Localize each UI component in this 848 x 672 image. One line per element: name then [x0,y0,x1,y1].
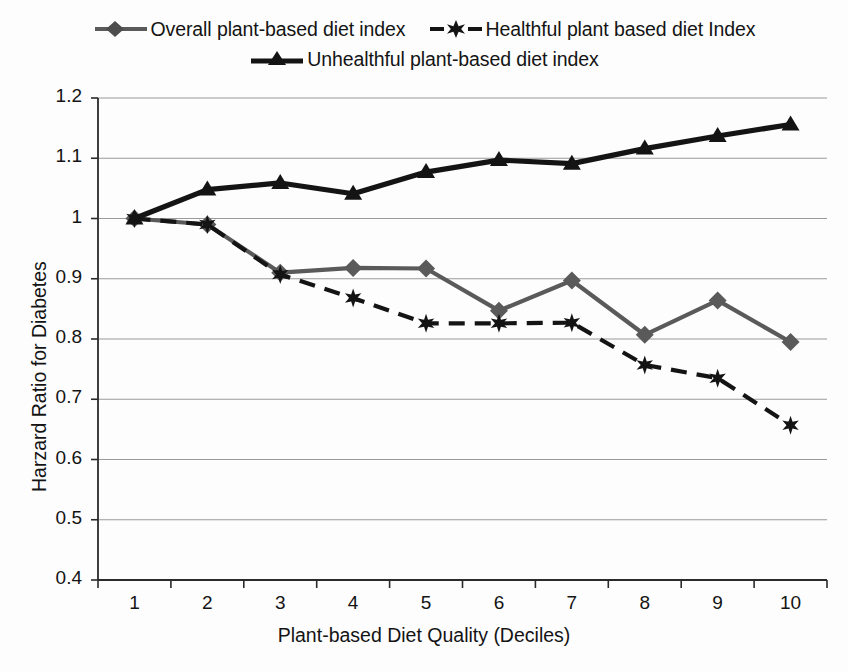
y-tick-label: 1.2 [12,85,82,107]
x-tick-label: 4 [331,592,375,614]
y-tick-label: 0.8 [12,326,82,348]
data-point-marker[interactable] [782,416,798,435]
data-point-marker[interactable] [344,259,362,277]
series-line [134,125,790,219]
chart-figure: Overall plant-based diet index Healthful… [0,0,848,672]
series-2 [126,209,799,435]
x-tick-label: 10 [769,592,813,614]
y-tick-label: 0.7 [12,386,82,408]
y-tick-label: 0.4 [12,567,82,589]
x-tick-label: 3 [258,592,302,614]
x-tick-label: 1 [112,592,156,614]
x-tick-label: 8 [623,592,667,614]
series-1 [125,210,799,352]
y-tick-label: 0.6 [12,447,82,469]
x-tick-label: 5 [404,592,448,614]
y-tick-label: 0.9 [12,266,82,288]
x-tick-label: 6 [477,592,521,614]
x-axis-title: Plant-based Diet Quality (Deciles) [0,624,848,647]
data-point-marker[interactable] [417,260,435,278]
x-tick-label: 9 [696,592,740,614]
x-tick-label: 2 [185,592,229,614]
y-tick-label: 1.1 [12,145,82,167]
x-tick-label: 7 [550,592,594,614]
y-tick-label: 0.5 [12,507,82,529]
data-point-marker[interactable] [782,333,800,351]
data-point-marker[interactable] [709,291,727,309]
series-line [134,219,790,426]
chart-plot-area [0,0,848,672]
y-tick-label: 1 [12,206,82,228]
series-3 [125,116,799,225]
